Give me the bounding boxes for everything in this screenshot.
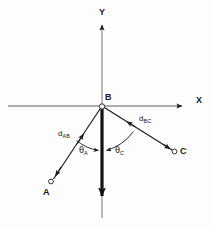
point-label-b: B bbox=[105, 93, 112, 102]
distance-label-ab-subscript: AB bbox=[62, 133, 70, 139]
vector-bc bbox=[102, 106, 172, 150]
vector-ba bbox=[54, 106, 103, 179]
diagram-svg bbox=[0, 0, 212, 228]
angle-label-theta-c: θC bbox=[115, 146, 124, 155]
y-axis-label: Y bbox=[99, 8, 105, 17]
vector-bc-line bbox=[102, 106, 172, 150]
vector-ba-arrowhead bbox=[77, 134, 84, 144]
vector-ba-end-arrowhead bbox=[56, 167, 62, 176]
x-axis-label: X bbox=[196, 96, 202, 105]
angle-label-theta-c-subscript: C bbox=[120, 150, 124, 156]
vector-bc-end-arrowhead bbox=[163, 144, 170, 148]
point-marker-a bbox=[49, 179, 54, 184]
point-marker-b bbox=[99, 104, 104, 109]
point-label-c: C bbox=[180, 147, 187, 156]
angle-label-theta-a-subscript: A bbox=[84, 150, 88, 156]
point-label-a: A bbox=[43, 188, 50, 197]
distance-label-ab: dAB bbox=[58, 130, 70, 138]
distance-label-bc-subscript: BC bbox=[143, 118, 151, 124]
distance-label-bc: dBC bbox=[139, 115, 152, 123]
diagram-canvas: X Y B A C dAB dBC θA θC bbox=[0, 0, 212, 228]
point-marker-c bbox=[172, 149, 177, 154]
vector-bc-arrowhead bbox=[127, 122, 135, 127]
angle-label-theta-a: θA bbox=[79, 146, 88, 155]
